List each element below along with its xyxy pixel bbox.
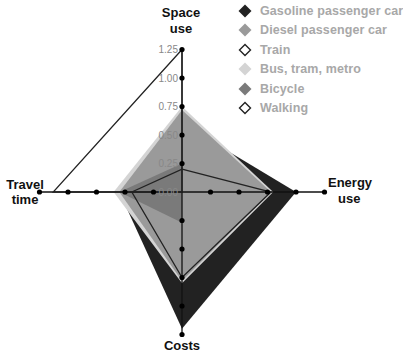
outline-diamond-icon — [238, 43, 252, 57]
legend-label: Gasoline passenger car — [260, 4, 403, 18]
legend-item-bus: Bus, tram, metro — [238, 60, 403, 80]
legend-item-gasoline: Gasoline passenger car — [238, 1, 403, 21]
legend-label: Train — [260, 43, 290, 57]
legend-item-train: Train — [238, 40, 403, 60]
outline-diamond-icon — [238, 101, 252, 115]
legend-label: Bicycle — [260, 82, 304, 96]
legend-label: Diesel passenger car — [260, 23, 387, 37]
axis-label-travel-2: time — [12, 192, 39, 207]
legend-item-bicycle: Bicycle — [238, 79, 403, 99]
tick-label: 0.25 — [159, 158, 179, 169]
axis-label-costs: Costs — [164, 338, 200, 353]
tick-label: 0.00 — [159, 187, 179, 198]
series-shapes — [114, 107, 296, 329]
legend-label: Walking — [260, 101, 308, 115]
filled-diamond-icon — [238, 4, 252, 18]
filled-diamond-icon — [238, 82, 252, 96]
axis-label-space-2: use — [170, 21, 192, 36]
filled-diamond-icon — [238, 23, 252, 37]
tick-label: 1.25 — [159, 44, 179, 55]
legend-label: Bus, tram, metro — [260, 62, 361, 76]
axis-label-travel-1: Travel — [6, 177, 44, 192]
tick-label: 0.50 — [159, 130, 179, 141]
filled-diamond-icon — [238, 62, 252, 76]
tick-label: 0.75 — [159, 101, 179, 112]
axis-label-energy-2: use — [338, 191, 360, 206]
axis-label-space-1: Space — [162, 5, 200, 20]
tick-label: 1.00 — [159, 73, 179, 84]
legend: Gasoline passenger car Diesel passenger … — [238, 1, 403, 118]
legend-item-walking: Walking — [238, 99, 403, 119]
legend-item-diesel: Diesel passenger car — [238, 21, 403, 41]
axis-label-energy-1: Energy — [328, 175, 373, 190]
